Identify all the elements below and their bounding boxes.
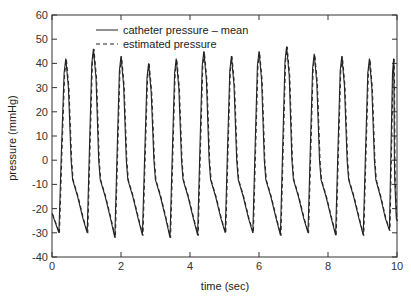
x-tick-label: 4 [187,260,193,272]
y-tick-label: 30 [36,82,48,94]
legend-label-catheter: catheter pressure – mean [123,24,248,36]
x-tick-label: 2 [118,260,124,272]
y-tick-label: -30 [32,227,48,239]
y-tick-label: -40 [32,251,48,263]
y-tick-label: 40 [36,57,48,69]
x-tick-label: 0 [49,260,55,272]
y-tick-label: 60 [36,9,48,21]
legend-label-estimated: estimated pressure [123,38,217,50]
series-catheter-pressure [52,47,397,238]
y-tick-label: -10 [32,178,48,190]
y-tick-label: 0 [42,154,48,166]
x-axis: 0246810 [49,15,403,272]
y-tick-label: -20 [32,203,48,215]
x-axis-label: time (sec) [201,280,249,292]
series-lines [52,47,398,239]
y-tick-label: 10 [36,130,48,142]
y-tick-label: 20 [36,106,48,118]
pressure-chart: -40-30-20-100102030405060 0246810 cathet… [0,0,411,297]
legend: catheter pressure – mean estimated press… [96,24,248,50]
x-tick-label: 8 [325,260,331,272]
x-tick-label: 10 [391,260,403,272]
x-tick-label: 6 [256,260,262,272]
plot-frame [52,15,397,257]
series-estimated-pressure [53,47,398,238]
y-axis-label: pressure (mmHg) [6,95,18,181]
y-tick-label: 50 [36,33,48,45]
